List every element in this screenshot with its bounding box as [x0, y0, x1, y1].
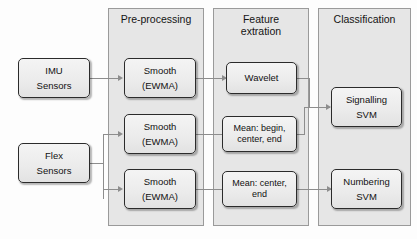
panel-title-classification: Classification: [318, 13, 411, 25]
node-mean-begin-center-end-line1: Mean: begin,: [233, 123, 285, 134]
node-flex-sensors-line1: Flex: [45, 150, 63, 162]
node-smooth-3-line1: Smooth: [144, 176, 177, 188]
node-imu-sensors[interactable]: IMU Sensors: [18, 58, 90, 98]
node-smooth-1[interactable]: Smooth (EWMA): [124, 58, 196, 98]
node-wavelet-line1: Wavelet: [245, 72, 279, 84]
connector-signalling-bus-b: [304, 107, 305, 135]
node-signalling-svm-line1: Signalling: [346, 94, 387, 106]
node-flex-sensors[interactable]: Flex Sensors: [18, 143, 90, 183]
node-imu-sensors-line2: Sensors: [37, 80, 72, 92]
node-numbering-svm-line1: Numbering: [343, 176, 389, 188]
node-smooth-2[interactable]: Smooth (EWMA): [124, 114, 196, 154]
node-mean-begin-center-end-line2: center, end: [237, 134, 282, 145]
node-mean-center-end-line1: Mean: center,: [232, 178, 287, 189]
panel-title-pre-processing: Pre-processing: [108, 13, 204, 25]
node-smooth-3[interactable]: Smooth (EWMA): [124, 169, 196, 209]
connector-flex-out: [90, 163, 104, 164]
node-signalling-svm[interactable]: Signalling SVM: [331, 87, 402, 127]
node-smooth-3-line2: (EWMA): [142, 191, 178, 203]
node-imu-sensors-line1: IMU: [45, 65, 62, 77]
connector-signalling-bus-a: [309, 78, 310, 107]
node-numbering-svm[interactable]: Numbering SVM: [331, 169, 402, 209]
arrowhead-smooth1-in: [118, 75, 123, 81]
arrowhead-smooth2-in: [118, 131, 123, 137]
diagram-canvas: Pre-processing Feature extration Classif…: [0, 0, 417, 239]
node-smooth-2-line2: (EWMA): [142, 136, 178, 148]
node-signalling-svm-line2: SVM: [356, 109, 377, 121]
node-smooth-1-line1: Smooth: [144, 65, 177, 77]
node-mean-center-end-line2: end: [252, 189, 267, 200]
node-wavelet[interactable]: Wavelet: [226, 62, 297, 94]
node-mean-center-end[interactable]: Mean: center, end: [222, 171, 297, 207]
node-flex-sensors-line2: Sensors: [37, 165, 72, 177]
node-smooth-1-line2: (EWMA): [142, 80, 178, 92]
node-mean-begin-center-end[interactable]: Mean: begin, center, end: [222, 116, 297, 152]
panel-title-feature-extration: Feature extration: [213, 13, 309, 37]
arrowhead-smooth3-in: [118, 186, 123, 192]
connector-mean-center-to-numbering: [297, 189, 331, 190]
connector-imu-to-smooth1: [90, 78, 121, 79]
node-smooth-2-line1: Smooth: [144, 121, 177, 133]
node-numbering-svm-line2: SVM: [356, 191, 377, 203]
